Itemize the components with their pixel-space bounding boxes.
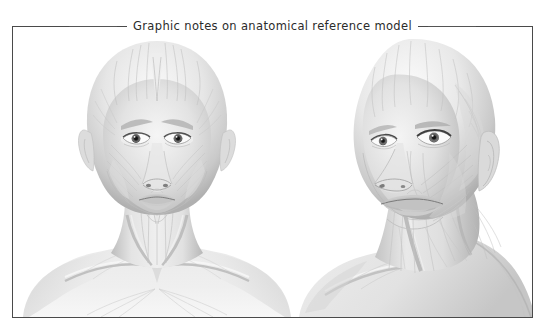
figure-stage: Frontal view of a bald female anatomical… (13, 27, 532, 317)
anatomy-panel: Frontal view of a bald female anatomical… (12, 26, 533, 318)
frontal-anatomical-head: Frontal view of a bald female anatomical… (21, 27, 293, 317)
three-quarter-anatomical-head: Three-quarter view of the same bald fema… (291, 27, 533, 317)
screenshot-root: Frontal view of a bald female anatomical… (0, 0, 545, 332)
